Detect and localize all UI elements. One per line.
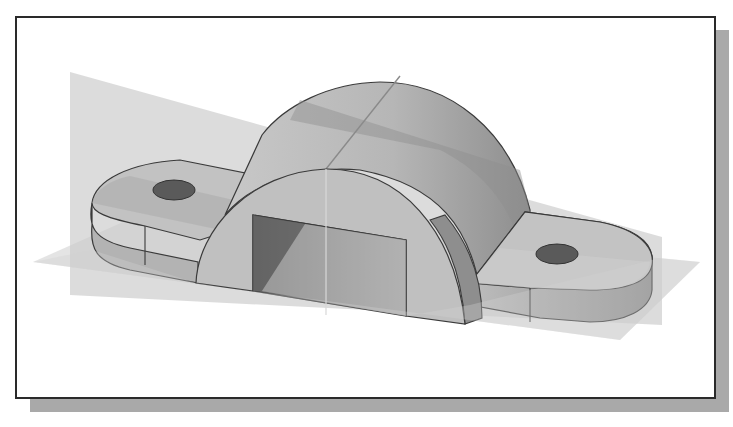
left-hole[interactable] (153, 180, 195, 200)
cad-model-viewport[interactable] (0, 0, 733, 427)
right-hole[interactable] (536, 244, 578, 264)
